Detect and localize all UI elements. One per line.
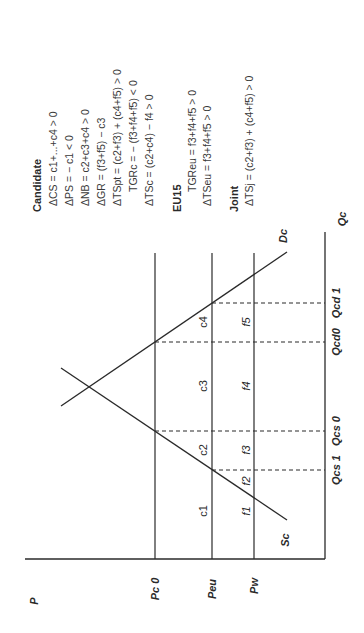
area-c4: c4	[197, 316, 209, 328]
legend: Candidate ΔCS = c1+...+c4 > 0 ΔPS = − c1…	[31, 69, 255, 212]
quantity-axis-label: Qc	[336, 212, 348, 227]
area-f4: f4	[240, 381, 252, 390]
legend-joint-title: Joint	[228, 185, 240, 212]
price-axis-label: P	[28, 597, 40, 605]
legend-candidate-eq-3: ΔGR = (f3+f5) − c3	[95, 117, 107, 206]
label-pw: Pw	[248, 577, 260, 594]
area-c3: c3	[197, 380, 209, 392]
label-demand-curve: Dc	[277, 229, 289, 243]
area-c2: c2	[197, 444, 209, 456]
legend-candidate-eq-6: ΔTSc = (c2+c4) − f4 > 0	[143, 94, 155, 206]
label-peu: Peu	[206, 579, 218, 599]
legend-candidate-eq-5: TGRc = − (f3+f4+f5) < 0	[127, 80, 139, 192]
legend-candidate-eq-2: ΔNB = c2+c3+c4 > 0	[79, 109, 91, 206]
legend-joint-eq-0: ΔTSj = (c2+f3) + (c4+f5) > 0	[243, 75, 255, 206]
legend-eu15-title: EU15	[171, 184, 183, 212]
legend-eu15-eq-1: ΔTSeu = f3+f4+f5 > 0	[201, 105, 213, 206]
label-qcs1: Qcs 1	[330, 455, 342, 485]
supply-curve	[61, 368, 287, 520]
label-supply-curve: Sc	[279, 533, 291, 546]
area-c1: c1	[197, 505, 209, 517]
legend-candidate-eq-1: ΔPS = − c1 < 0	[63, 135, 75, 206]
demand-curve	[61, 252, 287, 406]
legend-candidate-title: Candidate	[31, 159, 43, 212]
label-qcs0: Qcs 0	[330, 415, 342, 446]
legend-candidate-eq-4: ΔTSpt = (c2+f3) + (c4+f5) > 0	[111, 69, 123, 206]
rotated-diagram: P Qc Pc 0 Peu Pw Qcs 1 Qcs 0 Qcd0 Qcd 1 …	[0, 0, 364, 633]
area-f2: f2	[240, 476, 252, 485]
area-f5: f5	[240, 317, 252, 327]
area-f3: f3	[240, 445, 252, 455]
label-pc0: Pc 0	[149, 577, 161, 601]
legend-eu15-eq-0: TGReu = f3+f4+f5 > 0	[186, 90, 198, 192]
axes	[25, 232, 325, 559]
area-f1: f1	[240, 506, 252, 515]
legend-candidate-eq-0: ΔCS = c1+...+c4 > 0	[47, 111, 59, 206]
label-qcd0: Qcd0	[330, 327, 342, 355]
label-qcd1: Qcd 1	[330, 288, 342, 319]
